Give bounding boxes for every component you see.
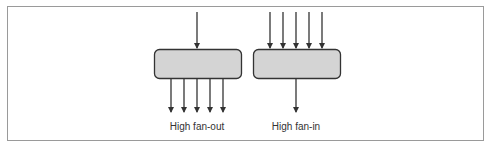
fan-out-label: High fan-out	[170, 121, 224, 132]
fan-out-group	[155, 12, 242, 112]
fan-diagram	[0, 0, 493, 148]
fan-out-module-box	[155, 50, 242, 79]
fan-in-module-box	[254, 50, 341, 79]
fan-in-group	[254, 12, 341, 112]
fan-in-label: High fan-in	[272, 121, 320, 132]
